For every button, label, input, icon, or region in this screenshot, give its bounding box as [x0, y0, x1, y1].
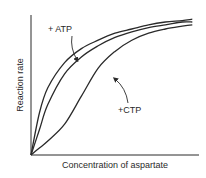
- x-axis-label: Concentration of aspartate: [62, 160, 168, 170]
- annotation-ctp-label: +CTP: [118, 105, 141, 115]
- y-axis-label: Reaction rate: [15, 58, 25, 112]
- series-layer: [31, 19, 192, 155]
- annotation-ctp-arrow: [115, 79, 128, 103]
- annotation-atp-arrow: [72, 36, 77, 60]
- annotation-atp-label: + ATP: [48, 24, 72, 34]
- allosteric-regulation-chart: Concentration of aspartate Reaction rate…: [0, 0, 206, 178]
